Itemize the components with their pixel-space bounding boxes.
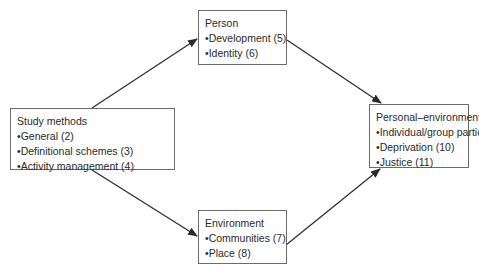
node-title: Environment [205, 216, 280, 231]
node-person: Person Development (5) Identity (6) [198, 10, 287, 65]
arrow-environment-to-interaction [286, 169, 380, 245]
arrow-study-to-person [92, 39, 197, 108]
list-item: Place (8) [205, 246, 280, 261]
list-item: Identity (6) [205, 46, 280, 61]
node-study-methods: Study methods General (2) Definitional s… [10, 108, 175, 170]
list-item: Deprivation (10) [376, 140, 462, 155]
list-item: Justice (11) [376, 155, 462, 170]
arrow-person-to-interaction [287, 40, 381, 103]
node-personal-environment-interaction: Personal–environment interaction Individ… [369, 104, 469, 168]
list-item: Communities (7) [205, 231, 280, 246]
node-title: Personal–environment interaction [376, 110, 462, 125]
node-title: Study methods [17, 114, 168, 129]
list-item: Development (5) [205, 31, 280, 46]
list-item: General (2) [17, 129, 168, 144]
arrow-study-to-environment [92, 170, 197, 236]
node-environment: Environment Communities (7) Place (8) [198, 210, 287, 264]
node-title: Person [205, 16, 280, 31]
list-item: Definitional schemes (3) [17, 144, 168, 159]
list-item: Activity management (4) [17, 159, 168, 174]
list-item: Individual/group participation (9) [376, 125, 462, 140]
